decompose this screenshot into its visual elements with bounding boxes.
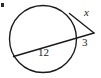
external-secant-length-label: 3: [82, 37, 88, 48]
circle-shape: [10, 6, 77, 73]
chord-length-label: 12: [38, 47, 49, 58]
geometry-figure: x 3 12: [0, 0, 101, 78]
tangent-length-label: x: [84, 7, 89, 18]
